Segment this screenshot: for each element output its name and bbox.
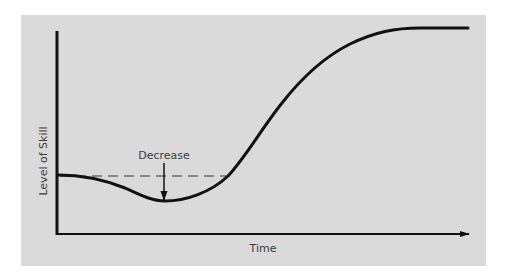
x-axis-label: Time xyxy=(249,242,277,255)
chart-svg: Decrease Time Level of Skill xyxy=(0,0,509,277)
y-axis-label: Level of Skill xyxy=(37,126,50,195)
decrease-annotation: Decrease xyxy=(138,149,190,162)
skill-curve xyxy=(58,28,468,201)
